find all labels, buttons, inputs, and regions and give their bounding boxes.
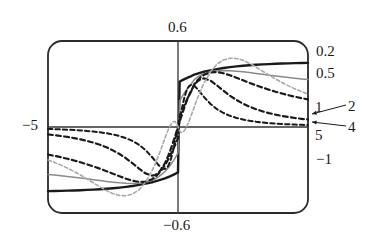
curve-label-1: 1 — [315, 100, 323, 115]
figure-container: 0.6 −0.6 −5 5 −1 0.2 0.5 1 2 4 — [0, 0, 378, 247]
curve-label-4: 4 — [348, 120, 356, 135]
curve-label-0p5: 0.5 — [316, 66, 335, 81]
curve-label-2: 2 — [348, 99, 356, 114]
axis-label-y-top: 0.6 — [168, 20, 187, 35]
arrow-to-curve-4 — [312, 121, 346, 126]
axis-label-x-left: −5 — [22, 118, 38, 133]
plot-svg — [0, 0, 378, 247]
axis-label-neg-one: −1 — [316, 152, 332, 167]
axis-label-y-bottom: −0.6 — [163, 218, 190, 233]
axis-label-x-right: 5 — [315, 128, 323, 143]
curve-label-0p2: 0.2 — [316, 44, 335, 59]
